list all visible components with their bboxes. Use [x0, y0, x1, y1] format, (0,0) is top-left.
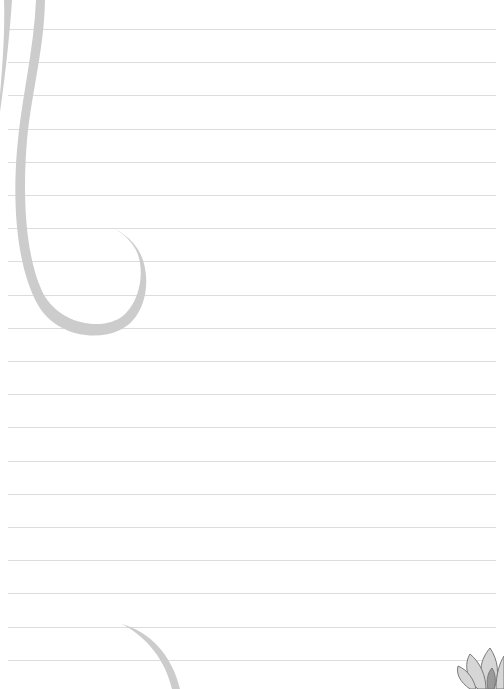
swirl-icon	[122, 624, 180, 689]
lotus-flower-icon	[458, 648, 504, 689]
swirl-decorations	[0, 0, 504, 689]
swirl-icon	[0, 0, 12, 112]
notepaper-page	[0, 0, 504, 689]
swirl-icon	[15, 0, 146, 336]
